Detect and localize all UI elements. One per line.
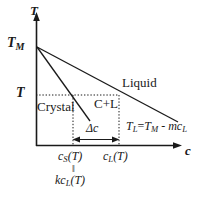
c-liquidus-tick-label: cL(T) [103,150,128,162]
tm-tick-label: TM [7,36,25,50]
kc-liquidus-symbol: kc [55,173,66,187]
delta-c-arrow [73,136,120,142]
liquidus-equation: TL=TM - mcL [126,120,187,132]
tm-symbol: T [7,35,16,50]
delta-c-label: Δc [86,122,98,134]
kc-liquidus-argument: (T) [70,173,85,187]
region-label-crystal: Crystal [37,100,75,113]
region-label-liquid: Liquid [122,76,157,89]
eq-rhs-second-symbol: mc [168,119,182,133]
tm-subscript: M [16,41,25,52]
kc-liquidus-subscript: L [66,178,71,188]
eq-minus-sign: - [158,119,168,133]
c-solidus-subscript: S [63,154,67,164]
c-solidus-argument: (T) [68,149,83,163]
c-liquidus-subscript: L [108,154,113,164]
y-axis [33,12,40,146]
eq-lhs-symbol: T [126,119,133,133]
eq-rhs-first-subscript: M [151,124,158,134]
eq-lhs-subscript: L [133,124,138,134]
y-axis-label: T [30,4,38,17]
c-solidus-tick-label: cS(T) [58,150,82,162]
region-label-two-phase: C+L [94,97,118,110]
eq-rhs-first-symbol: T [144,119,151,133]
eq-rhs-second-subscript: L [182,124,187,134]
x-axis-label: c [185,144,191,157]
x-axis [36,142,182,149]
c-liquidus-argument: (T) [113,149,128,163]
kc-liquidus-label: kcL(T) [55,174,85,186]
t-tick-label: T [16,86,25,100]
phase-diagram-figure: T c TM T Crystal C+L Liquid Δc cS(T) ‖ k… [0,0,221,200]
